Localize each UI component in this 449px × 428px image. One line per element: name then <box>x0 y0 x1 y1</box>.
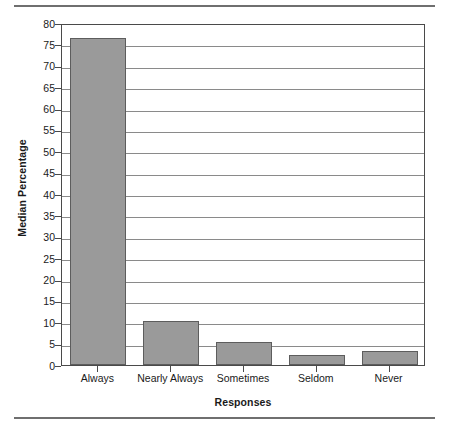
plot-area <box>61 24 425 366</box>
y-axis-tick-label: 80 <box>9 19 55 30</box>
y-axis-tick-label: 5 <box>9 339 55 350</box>
bar <box>362 351 418 365</box>
bar <box>216 342 272 365</box>
top-divider-rule <box>14 5 435 7</box>
x-axis-category-label: Always <box>61 373 134 385</box>
y-axis-tick-label: 75 <box>9 40 55 51</box>
x-axis-category-label: Nearly Always <box>134 373 207 385</box>
y-axis-tick-label: 35 <box>9 211 55 222</box>
y-axis-tick-label: 20 <box>9 275 55 286</box>
y-axis-tick-label: 40 <box>9 190 55 201</box>
y-axis-tick-label: 0 <box>9 361 55 372</box>
bottom-divider-rule <box>14 417 435 419</box>
y-axis-tick-label: 10 <box>9 318 55 329</box>
x-axis-category-label: Seldom <box>279 373 352 385</box>
bar <box>70 38 126 365</box>
y-axis-tick-label: 25 <box>9 254 55 265</box>
y-axis-tick-label: 45 <box>9 168 55 179</box>
bar-chart-figure: Median Percentage 0510152025303540455055… <box>0 0 449 428</box>
y-axis-tick-label: 60 <box>9 104 55 115</box>
y-axis-tick-label: 15 <box>9 296 55 307</box>
bar <box>143 321 199 365</box>
x-axis-category-label: Never <box>352 373 425 385</box>
x-axis-category-label: Sometimes <box>207 373 280 385</box>
y-axis-tick-mark <box>55 366 61 367</box>
y-axis-tick-label: 55 <box>9 125 55 136</box>
x-axis-title: Responses <box>61 396 425 408</box>
bar <box>289 355 345 365</box>
y-axis-tick-label: 70 <box>9 61 55 72</box>
y-axis-tick-label: 65 <box>9 83 55 94</box>
y-axis-tick-label: 30 <box>9 232 55 243</box>
y-axis-tick-label: 50 <box>9 147 55 158</box>
